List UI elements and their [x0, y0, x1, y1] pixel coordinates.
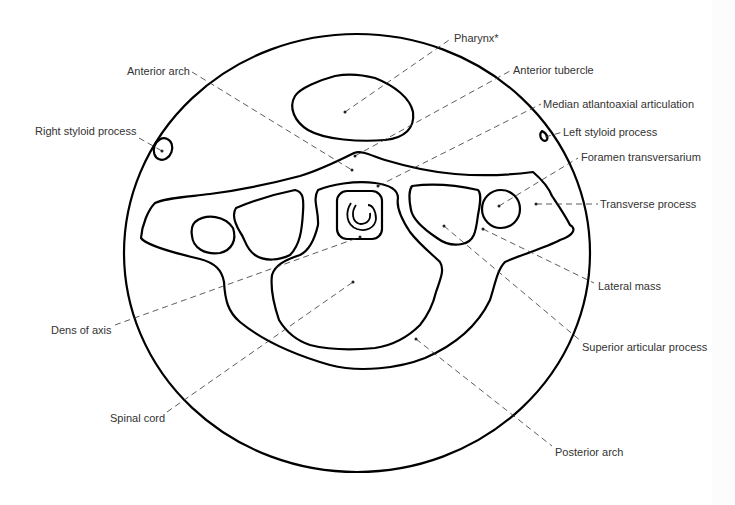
leader-dot-dens-of-axis	[359, 236, 362, 239]
left-superior-articular-facet	[410, 185, 481, 245]
leader-dot-spinal-cord	[352, 281, 355, 284]
leader-dot-foramen-transversarium	[498, 205, 501, 208]
leader-posterior-arch	[416, 339, 552, 446]
label-transverse-process: Transverse process	[600, 198, 697, 210]
right-superior-articular-facet	[234, 190, 303, 260]
vertebral-canal	[271, 182, 442, 349]
left-foramen-transversarium	[482, 190, 520, 228]
label-right-styloid-process: Right styloid process	[35, 125, 137, 137]
leader-foramen-transversarium	[499, 158, 578, 206]
leader-dot-median-atlantoaxial	[377, 185, 380, 188]
right-styloid-shape	[151, 136, 175, 163]
dens-inner	[347, 203, 376, 230]
diagram: Pharynx* Anterior arch Anterior tubercle…	[0, 0, 735, 505]
leader-dot-transverse-process	[535, 203, 538, 206]
leader-lateral-mass	[483, 229, 594, 283]
label-left-styloid-process: Left styloid process	[563, 126, 658, 138]
leader-anterior-arch	[192, 72, 352, 170]
label-spinal-cord: Spinal cord	[110, 412, 165, 424]
label-median-atlantoaxial-articulation: Median atlantoaxial articulation	[543, 98, 694, 110]
label-dens-of-axis: Dens of axis	[51, 324, 112, 336]
leader-anterior-tubercle	[355, 71, 510, 156]
right-foramen-transversarium	[192, 217, 235, 254]
leader-dot-right-styloid	[161, 150, 164, 153]
pharynx-shape	[292, 75, 413, 141]
atlas-outline	[141, 152, 573, 369]
label-lateral-mass: Lateral mass	[598, 280, 661, 292]
leader-dot-anterior-arch	[351, 169, 354, 172]
left-styloid-shape	[540, 131, 547, 141]
leader-dot-lateral-mass	[482, 228, 485, 231]
label-posterior-arch: Posterior arch	[555, 446, 623, 458]
label-anterior-arch: Anterior arch	[127, 65, 190, 77]
label-pharynx: Pharynx*	[454, 32, 499, 44]
leader-dot-superior-articular	[443, 225, 446, 228]
label-foramen-transversarium: Foramen transversarium	[581, 151, 701, 163]
label-superior-articular-process: Superior articular process	[582, 341, 708, 353]
label-anterior-tubercle: Anterior tubercle	[513, 64, 594, 76]
leader-dot-posterior-arch	[415, 338, 418, 341]
section-outline	[124, 34, 590, 472]
leader-dot-pharynx	[344, 111, 347, 114]
leader-dens-of-axis	[115, 237, 360, 325]
leader-dot-anterior-tubercle	[354, 155, 357, 158]
atlas-section-svg: Pharynx* Anterior arch Anterior tubercle…	[0, 0, 735, 505]
